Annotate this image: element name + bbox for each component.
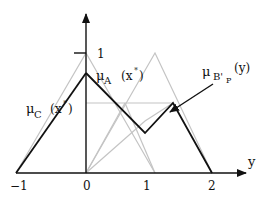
label-mu-a: μ A (x * ): [96, 66, 144, 86]
fuzzy-diagram: 1 −1 0 1 2 y μ A (x * ) μ C (x * ) μ B' …: [0, 0, 268, 200]
gray-line-d: [125, 103, 155, 173]
x-tick-label-2: 2: [208, 179, 216, 193]
gray-line-c: [86, 103, 125, 173]
gray-membership-triangles: [16, 53, 212, 173]
svg-text:(x: (x: [121, 69, 133, 83]
gray-triangle-centered-1: [86, 53, 212, 173]
y-tick-label-one: 1: [97, 47, 105, 61]
svg-text:(y): (y): [234, 61, 250, 75]
svg-text:*: *: [63, 99, 67, 108]
x-tick-label-1: 1: [143, 179, 151, 193]
svg-text:C: C: [34, 109, 42, 120]
svg-text:B': B': [213, 71, 223, 82]
mu-c-line: [16, 73, 86, 173]
svg-text:): ): [139, 69, 144, 83]
svg-text:μ: μ: [202, 64, 210, 79]
svg-text:*: *: [134, 66, 138, 75]
x-axis-label: y: [247, 154, 256, 169]
svg-text:P: P: [226, 76, 232, 85]
svg-text:A: A: [103, 75, 112, 86]
x-tick-label-0: 0: [83, 179, 91, 193]
svg-text:(x: (x: [50, 102, 62, 116]
svg-text:): ): [68, 102, 73, 116]
x-tick-label-neg1: −1: [10, 179, 28, 193]
label-mu-bp: μ B' P (y): [202, 61, 250, 85]
